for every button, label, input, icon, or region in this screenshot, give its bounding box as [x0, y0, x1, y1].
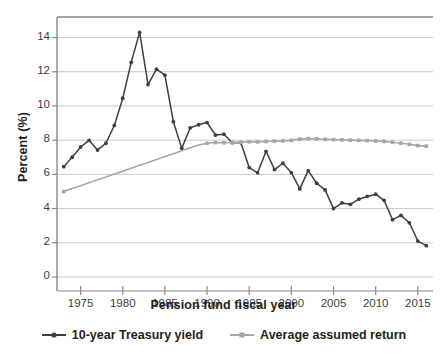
legend-item-assumed-return[interactable]: Average assumed return — [229, 328, 406, 342]
y-axis-title: Percent (%) — [16, 47, 30, 247]
x-axis-title: Pension fund fiscal year — [0, 298, 447, 312]
legend-marker-square-icon — [229, 329, 255, 341]
chart-legend: 10-year Treasury yield Average assumed r… — [0, 328, 447, 342]
legend-label-treasury: 10-year Treasury yield — [72, 328, 203, 342]
plot-frame — [52, 17, 433, 291]
y-tick-label: 14 — [20, 30, 50, 42]
data-series — [62, 30, 428, 247]
y-tick-label: 0 — [20, 269, 50, 281]
legend-item-treasury[interactable]: 10-year Treasury yield — [41, 328, 203, 342]
legend-marker-circle-icon — [41, 329, 67, 341]
legend-label-assumed-return: Average assumed return — [260, 328, 406, 342]
chart-container: 02468101214 1975198019851990199520002005… — [0, 0, 447, 359]
